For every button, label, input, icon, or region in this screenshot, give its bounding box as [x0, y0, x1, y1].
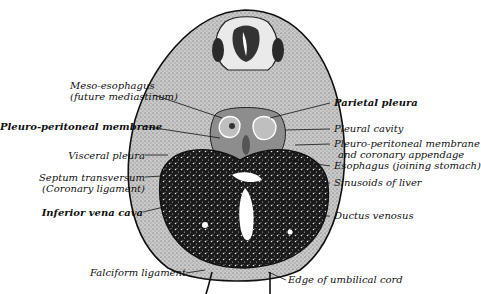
label-ductus-venosus: Ductus venosus	[334, 210, 414, 221]
label-line: (Coronary ligament)	[20, 183, 145, 194]
label-parietal-pleura: Parietal pleura	[334, 97, 418, 108]
label-esophagus: Esophagus (joining stomach)	[334, 160, 481, 171]
label-visceral-pleura: Visceral pleura	[40, 150, 145, 161]
label-line: Pleuro-peritoneal membrane	[334, 138, 480, 149]
label-pleural-cavity: Pleural cavity	[334, 123, 403, 134]
label-line: Septum transversum	[20, 172, 145, 183]
label-line: Meso-esophagus	[70, 80, 154, 91]
label-pleuro-peritoneal-membrane: Pleuro-peritoneal membrane	[0, 121, 142, 132]
label-sinusoids-of-liver: Sinusoids of liver	[334, 177, 422, 188]
label-falciform-ligament: Falciform ligament	[70, 267, 186, 278]
label-line: and coronary appendage	[334, 149, 480, 160]
label-line: (future mediastinum)	[70, 91, 154, 102]
label-septum-transversum: Septum transversum (Coronary ligament)	[20, 172, 145, 194]
label-meso-esophagus: Meso-esophagus (future mediastinum)	[70, 80, 154, 102]
label-inferior-vena-cava: Inferior vena cava	[20, 207, 143, 218]
label-edge-of-umbilical-cord: Edge of umbilical cord	[288, 274, 403, 285]
label-pleuro-peritoneal-membrane-coronary: Pleuro-peritoneal membrane and coronary …	[334, 138, 480, 160]
